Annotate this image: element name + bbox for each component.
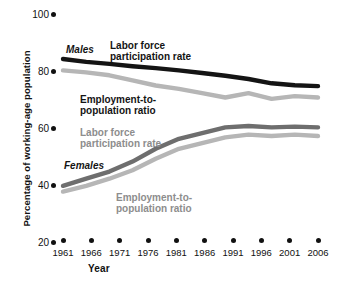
- annotation-males-epr-line1: Employment-to-: [80, 94, 156, 105]
- annotation-females-lfpr: Labor force participation rate: [80, 127, 161, 149]
- annotation-males-lfpr-line2: participation rate: [110, 51, 191, 62]
- x-tick-dot-1996: [259, 238, 264, 243]
- x-tick-dot-1966: [89, 238, 94, 243]
- annotation-females: Females: [64, 160, 104, 171]
- annotation-males-lfpr: Labor force participation rate: [110, 40, 191, 62]
- annotation-females-lfpr-line1: Labor force: [80, 127, 161, 138]
- annotation-females-epr: Employment-to- population ratio: [116, 192, 192, 214]
- x-axis-title: Year: [88, 263, 110, 274]
- x-tick-dot-1981: [174, 238, 179, 243]
- x-tick-dot-2006: [316, 238, 321, 243]
- annotation-males-lfpr-line1: Labor force: [110, 40, 191, 51]
- annotation-females-epr-line2: population ratio: [116, 203, 192, 214]
- x-tick-dot-1991: [231, 238, 236, 243]
- x-tick-dot-1961: [61, 238, 66, 243]
- annotation-males: Males: [66, 44, 94, 55]
- annotation-males-epr-line2: population ratio: [80, 105, 156, 116]
- chart-container: Percentage of working-age population 100…: [0, 0, 344, 285]
- annotation-males-epr: Employment-to- population ratio: [80, 94, 156, 116]
- annotation-females-epr-line1: Employment-to-: [116, 192, 192, 203]
- x-tick-dot-1976: [146, 238, 151, 243]
- x-tick-label-2006: 2006: [298, 247, 338, 258]
- annotation-females-lfpr-line2: participation rate: [80, 138, 161, 149]
